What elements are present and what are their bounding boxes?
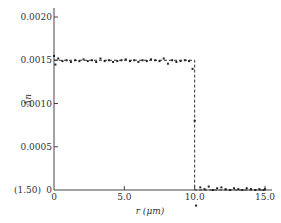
x-axis-label: r (μm) bbox=[136, 206, 165, 216]
y-tick-label: 0.0015 bbox=[21, 55, 53, 65]
data-point bbox=[146, 60, 148, 62]
data-point bbox=[112, 61, 114, 63]
data-point bbox=[237, 188, 239, 190]
data-point bbox=[246, 187, 248, 189]
x-tick-label: 0 bbox=[51, 192, 57, 202]
step-profile-line bbox=[54, 60, 265, 190]
x-tick-label: 5.0 bbox=[117, 192, 132, 202]
data-point bbox=[91, 59, 93, 61]
data-point bbox=[180, 60, 182, 62]
data-point bbox=[163, 58, 165, 60]
data-point bbox=[220, 186, 222, 188]
data-point bbox=[66, 59, 68, 61]
y-tick-label: 0.0005 bbox=[21, 142, 53, 152]
data-point bbox=[188, 60, 190, 62]
data-point bbox=[87, 60, 89, 62]
data-point bbox=[159, 60, 161, 62]
data-point bbox=[199, 186, 201, 188]
y-origin-annotation: (1.50) bbox=[14, 185, 41, 195]
data-point bbox=[225, 188, 227, 190]
data-point bbox=[108, 59, 110, 61]
data-point bbox=[83, 58, 85, 60]
data-point bbox=[204, 188, 206, 190]
data-point bbox=[70, 61, 72, 63]
data-point bbox=[208, 186, 210, 188]
series-layer bbox=[53, 55, 266, 207]
x-ticks: 05.010.015.0 bbox=[51, 186, 275, 202]
data-point bbox=[167, 63, 169, 65]
data-point bbox=[175, 61, 177, 63]
x-tick-label: 10.0 bbox=[185, 192, 205, 202]
data-point bbox=[104, 60, 106, 62]
data-point bbox=[171, 59, 173, 61]
data-point bbox=[212, 189, 214, 191]
data-point bbox=[194, 120, 196, 122]
x-tick-label: 15.0 bbox=[255, 192, 275, 202]
axes bbox=[54, 8, 272, 190]
data-point bbox=[137, 61, 139, 63]
data-point bbox=[254, 189, 256, 191]
data-point bbox=[95, 61, 97, 63]
data-point bbox=[258, 188, 260, 190]
data-point bbox=[57, 58, 59, 60]
data-point bbox=[116, 60, 118, 62]
data-point bbox=[121, 59, 123, 61]
data-point bbox=[233, 187, 235, 189]
data-point bbox=[61, 60, 63, 62]
data-point bbox=[74, 59, 76, 61]
data-point bbox=[78, 60, 80, 62]
data-point bbox=[142, 59, 144, 61]
data-point bbox=[229, 189, 231, 191]
data-point bbox=[154, 59, 156, 61]
data-point bbox=[133, 59, 135, 61]
data-point bbox=[99, 58, 101, 60]
data-point bbox=[264, 188, 266, 190]
data-point bbox=[192, 68, 194, 70]
data-point bbox=[241, 189, 243, 191]
data-point bbox=[54, 64, 56, 66]
y-axis-label: Δn bbox=[23, 94, 33, 107]
data-point bbox=[184, 59, 186, 61]
data-point bbox=[53, 55, 55, 57]
data-point bbox=[216, 187, 218, 189]
data-point bbox=[150, 58, 152, 60]
data-point bbox=[129, 60, 131, 62]
data-point bbox=[125, 58, 127, 60]
y-tick-label: 0.0020 bbox=[21, 12, 53, 22]
chart-canvas: 00.00050.00100.00150.0020 05.010.015.0 Δ… bbox=[0, 0, 281, 223]
data-point bbox=[195, 205, 197, 207]
data-point bbox=[250, 188, 252, 190]
